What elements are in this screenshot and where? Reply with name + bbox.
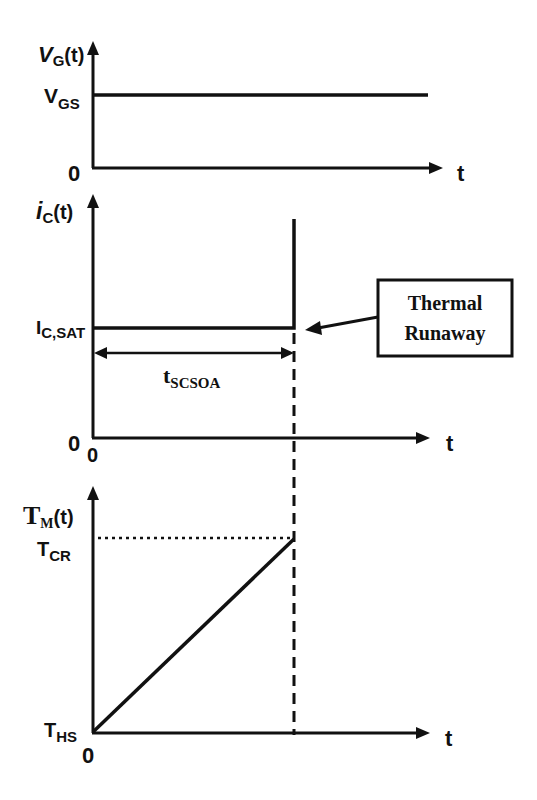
junction-temperature-panel: TM(t) TCR THS 0 t (23, 486, 453, 768)
ic-waveform (93, 219, 294, 328)
vg-x-label: t (457, 161, 465, 186)
waveform-diagram: VG(t) VGS 0 t iC(t) IC,SAT tSCSOA 0 0 t … (0, 0, 537, 800)
ic-ylabel: iC(t) (36, 198, 73, 226)
vg-x-axis-arrow-icon (429, 162, 443, 174)
vg-ylabel: VG(t) (38, 42, 84, 69)
tm-y-axis-arrow-icon (87, 486, 99, 500)
callout-line1: Thermal (408, 292, 483, 314)
ic-zero-y-label: 0 (68, 431, 80, 456)
vg-y-axis-arrow-icon (87, 41, 99, 55)
tscsoa-label: tSCSOA (163, 363, 221, 391)
tm-ylabel: TM(t) (23, 501, 74, 531)
tm-x-label: t (445, 726, 453, 751)
ic-y-axis-arrow-icon (87, 194, 99, 208)
callout-arrow-icon (305, 321, 322, 335)
tm-zero-x-label: 0 (82, 743, 94, 768)
vg-zero-label: 0 (68, 161, 80, 186)
tscsoa-left-arrow-icon (94, 347, 107, 359)
vgs-label: VGS (44, 84, 80, 112)
tm-x-axis-arrow-icon (416, 727, 430, 739)
tm-waveform (93, 539, 294, 732)
gate-voltage-panel: VG(t) VGS 0 t (38, 41, 465, 186)
ic-zero-x-label: 0 (87, 444, 98, 466)
ic-sat-label: IC,SAT (36, 317, 85, 341)
callout-pointer-line (318, 317, 378, 328)
callout-line2: Runaway (404, 322, 485, 345)
ic-x-label: t (446, 431, 454, 456)
thermal-runaway-callout: Thermal Runaway (305, 280, 512, 356)
tscsoa-right-arrow-icon (281, 347, 294, 359)
ic-x-axis-arrow-icon (416, 432, 430, 444)
tcr-label: TCR (37, 538, 71, 564)
ths-label: THS (44, 719, 77, 745)
